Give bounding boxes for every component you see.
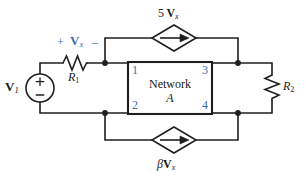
label-bottom-source-main: V bbox=[163, 157, 172, 171]
label-bottom-dependent-source: βVx bbox=[157, 158, 175, 172]
junction-dot-node1 bbox=[102, 60, 108, 66]
label-r2-sub: 2 bbox=[290, 85, 294, 94]
node-label-2: 2 bbox=[132, 99, 138, 111]
label-top-dependent-source: 5 Vx bbox=[158, 7, 179, 21]
wire-group-right-branch bbox=[212, 63, 272, 113]
label-r1-sub: 1 bbox=[75, 76, 79, 85]
wire-node2-down-to-bottom-source bbox=[105, 113, 152, 140]
dependent-source-bottom-symbol bbox=[152, 127, 196, 153]
junction-dot-node3 bbox=[235, 60, 241, 66]
node-label-1: 1 bbox=[132, 64, 138, 76]
voltage-source-v1-symbol bbox=[26, 74, 54, 102]
circuit-diagram-canvas: V1 + Vx – R1 R2 5 Vx βVx Network A 1 2 3… bbox=[0, 0, 306, 180]
network-box-label-line2: A bbox=[147, 92, 193, 104]
label-resistor-r2: R2 bbox=[283, 80, 294, 94]
node-label-3: 3 bbox=[202, 64, 208, 76]
wire-top-source-to-right-rail bbox=[196, 38, 238, 63]
label-vx-main: V bbox=[70, 33, 79, 48]
junction-dot-node2 bbox=[102, 110, 108, 116]
label-vx-minus-text: – bbox=[92, 35, 98, 49]
wire-source-top-to-r1 bbox=[40, 63, 63, 74]
label-resistor-r1: R1 bbox=[68, 71, 79, 85]
wire-node1-up-to-top-source bbox=[105, 38, 152, 63]
wire-source-bottom-to-node2 bbox=[40, 102, 128, 113]
network-box-label-line1: Network bbox=[147, 78, 193, 90]
label-top-source-main: V bbox=[166, 6, 175, 20]
resistor-r1-symbol bbox=[63, 56, 88, 70]
junction-dot-node4 bbox=[235, 110, 241, 116]
label-vx-plus: + bbox=[57, 36, 64, 48]
label-bottom-source-sub: x bbox=[172, 163, 176, 172]
wire-junction-to-r2-top bbox=[238, 63, 272, 75]
label-vx-sub: x bbox=[79, 39, 83, 49]
resistor-r2-symbol bbox=[265, 75, 279, 101]
label-source-v1-sub: 1 bbox=[14, 85, 18, 95]
dependent-source-top-symbol bbox=[152, 25, 196, 51]
label-vx-plus-text: + bbox=[57, 35, 64, 49]
label-top-source-sub: x bbox=[175, 12, 179, 21]
wire-bottom-source-to-right-rail bbox=[196, 113, 238, 140]
label-source-v1-main: V bbox=[5, 79, 14, 94]
label-vx: Vx bbox=[70, 34, 83, 49]
node-label-4: 4 bbox=[202, 99, 208, 111]
label-vx-minus: – bbox=[92, 36, 98, 48]
wire-r2-bottom-to-junction bbox=[238, 101, 272, 113]
label-source-v1: V1 bbox=[5, 80, 19, 95]
